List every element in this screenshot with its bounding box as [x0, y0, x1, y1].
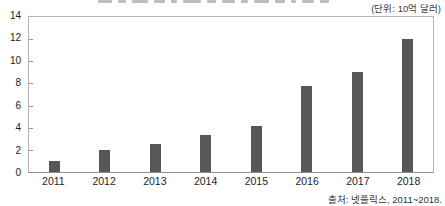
bar [301, 86, 312, 172]
bar [402, 39, 413, 172]
x-axis: 20112012201320142015201620172018 [28, 176, 434, 187]
bar-column [80, 17, 131, 172]
cropped-title-fragments [98, 0, 336, 4]
bar-column [332, 17, 383, 172]
x-axis-label: 2017 [333, 176, 384, 187]
bar-column [29, 17, 80, 172]
cropped-glyph-fragment [118, 0, 126, 3]
x-axis-label: 2016 [282, 176, 333, 187]
cropped-glyph-fragment [132, 0, 148, 3]
y-axis-label: 12 [10, 33, 21, 43]
bar [99, 150, 110, 172]
cropped-glyph-fragment [241, 0, 248, 3]
bar-chart-figure: (단위: 10억 달러) 14121086420 201120122013201… [0, 0, 445, 206]
y-axis-label: 10 [10, 56, 21, 66]
bar-column [181, 17, 232, 172]
x-axis-label: 2018 [383, 176, 434, 187]
cropped-glyph-fragment [222, 0, 235, 3]
bar-series [29, 17, 433, 172]
source-caption: 출처: 넷플릭스, 2011~2018. [328, 192, 442, 206]
x-axis-label: 2015 [231, 176, 282, 187]
unit-label: (단위: 10억 달러) [371, 1, 441, 15]
y-axis-label: 14 [10, 11, 21, 21]
y-axis-label: 0 [15, 168, 21, 178]
y-axis-label: 6 [15, 101, 21, 111]
cropped-glyph-fragment [291, 0, 296, 3]
bar-column [130, 17, 181, 172]
cropped-glyph-fragment [254, 0, 269, 3]
bar [49, 161, 60, 172]
x-axis-label: 2013 [130, 176, 181, 187]
bar [200, 135, 211, 172]
cropped-glyph-fragment [207, 0, 216, 3]
cropped-glyph-fragment [98, 0, 112, 3]
bar [352, 72, 363, 172]
cropped-glyph-fragment [154, 0, 165, 3]
x-axis-label: 2014 [180, 176, 231, 187]
cropped-glyph-fragment [320, 0, 329, 3]
y-axis-label: 2 [15, 146, 21, 156]
y-axis-label: 4 [15, 123, 21, 133]
cropped-glyph-fragment [171, 0, 177, 3]
plot-area [28, 16, 434, 173]
bar-column [282, 17, 333, 172]
bar-column [383, 17, 434, 172]
x-axis-label: 2012 [79, 176, 130, 187]
bar [251, 126, 262, 173]
cropped-glyph-fragment [302, 0, 314, 3]
y-axis-label: 8 [15, 78, 21, 88]
bar [150, 144, 161, 172]
cropped-glyph-fragment [275, 0, 285, 3]
x-axis-label: 2011 [28, 176, 79, 187]
bar-column [231, 17, 282, 172]
cropped-glyph-fragment [183, 0, 201, 3]
y-axis: 14121086420 [0, 16, 24, 173]
